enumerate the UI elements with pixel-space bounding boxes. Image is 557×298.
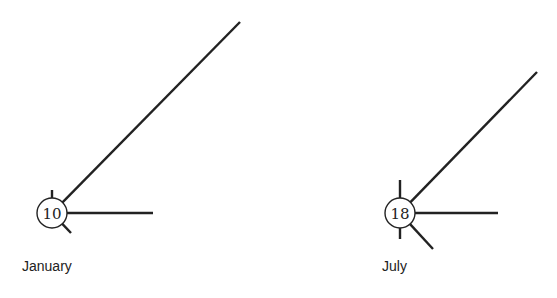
- station-model-july: 18: [385, 72, 537, 249]
- panel-label-july: July: [382, 258, 407, 274]
- wind-rose-diagram: 1018: [0, 0, 557, 298]
- panel-label-january: January: [22, 258, 72, 274]
- wind-ray-se: [62, 224, 71, 233]
- calm-percentage-value: 10: [42, 205, 61, 223]
- wind-ray-ne: [63, 22, 241, 202]
- station-model-january: 10: [37, 22, 240, 233]
- calm-percentage-value: 18: [390, 205, 409, 223]
- diagram-canvas: 1018 January July: [0, 0, 557, 298]
- wind-ray-se: [410, 224, 433, 249]
- wind-ray-ne: [411, 72, 538, 202]
